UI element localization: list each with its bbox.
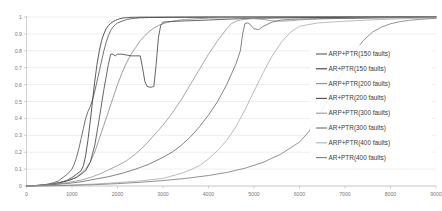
- x-axis-tick-labels: 0100020003000400050006000700080009000: [25, 191, 442, 197]
- y-tick-label: 0.4: [15, 115, 22, 121]
- legend-item-label: ARP+PTR(400 faults): [329, 139, 391, 147]
- y-axis-tick-labels: 00.10.20.30.40.50.60.70.80.91: [15, 14, 22, 189]
- legend-item-label: ARP+PTR(200 faults): [329, 80, 391, 88]
- x-tick-label: 7000: [339, 191, 351, 197]
- legend-item-label: ARP+PTR(300 faults): [329, 109, 391, 117]
- line-chart: 00.10.20.30.40.50.60.70.80.91 0100020003…: [0, 0, 442, 211]
- x-tick-label: 4000: [203, 191, 215, 197]
- x-tick-label: 1000: [66, 191, 78, 197]
- y-tick-label: 0.5: [15, 99, 22, 105]
- legend-background: [310, 45, 432, 166]
- y-tick-label: 0.6: [15, 82, 22, 88]
- y-tick-label: 0.7: [15, 65, 22, 71]
- x-tick-label: 0: [25, 191, 28, 197]
- legend-item-label: AR+PTR(150 faults): [329, 65, 386, 73]
- y-tick-label: 0.8: [15, 48, 22, 54]
- y-tick-label: 0: [19, 183, 22, 189]
- chart-canvas: 00.10.20.30.40.50.60.70.80.91 0100020003…: [0, 0, 442, 211]
- x-tick-label: 2000: [112, 191, 124, 197]
- x-tick-label: 9000: [430, 191, 442, 197]
- y-tick-label: 1: [19, 14, 22, 20]
- legend-item-label: ARP+PTR(150 faults): [329, 50, 391, 58]
- legend-item-label: AR+PTR(200 faults): [329, 94, 386, 102]
- y-tick-label: 0.9: [15, 31, 22, 37]
- x-tick-label: 6000: [294, 191, 306, 197]
- legend-item-label: AR+PTR(300 faults): [329, 124, 386, 132]
- y-tick-label: 0.1: [15, 166, 22, 172]
- x-tick-label: 5000: [248, 191, 260, 197]
- x-tick-label: 3000: [157, 191, 169, 197]
- chart-legend: ARP+PTR(150 faults)AR+PTR(150 faults)ARP…: [310, 45, 432, 166]
- y-tick-label: 0.3: [15, 132, 22, 138]
- legend-item-label: AR+PTR(400 faults): [329, 154, 386, 162]
- x-tick-label: 8000: [385, 191, 397, 197]
- y-tick-label: 0.2: [15, 149, 22, 155]
